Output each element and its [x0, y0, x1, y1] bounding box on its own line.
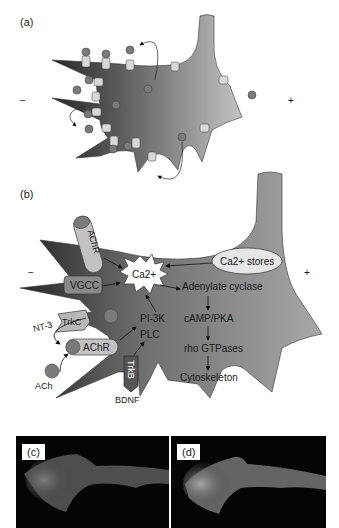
cascade-step-4: Cytoskeleton	[180, 372, 238, 383]
trkb-label: TrkB	[126, 360, 136, 379]
achr-bottom-label: AChR	[83, 342, 110, 353]
plc-label: PLC	[140, 329, 159, 340]
cascade-step-2: cAMP/PKA	[184, 313, 234, 324]
panel-b-minus: −	[28, 267, 34, 278]
cascade-step-3: rho GTPases	[184, 343, 243, 354]
bdnf-label: BDNF	[115, 395, 140, 405]
pi3k-label: PI-3K	[140, 313, 165, 324]
panel-c-label: (c)	[22, 444, 45, 460]
trkc-receptor: TrkC	[56, 310, 90, 332]
micrograph-d: (d)	[171, 436, 326, 528]
ligand-circle	[104, 309, 118, 323]
nt3-label: NT-3	[32, 320, 53, 334]
panel-a-growth-cone	[52, 15, 242, 173]
vgcc-channel: VGCC	[64, 276, 102, 294]
trkb-receptor: TrkB	[124, 356, 138, 392]
achr-bottom-receptor: AChR	[66, 339, 118, 355]
panel-d-label: (d)	[177, 444, 200, 460]
calcium-label: Ca2+	[132, 269, 156, 280]
cascade-step-1: Adenylate cyclase	[182, 281, 263, 292]
ach-ligand	[45, 364, 59, 378]
micrograph-c: (c)	[16, 436, 169, 528]
panel-a-plus: +	[288, 95, 294, 106]
calcium-stores-label: Ca2+ stores	[220, 256, 274, 267]
ach-label: ACh	[35, 381, 53, 391]
panel-b-plus: +	[304, 267, 310, 278]
calcium-stores: Ca2+ stores	[212, 248, 282, 274]
vgcc-label: VGCC	[70, 280, 99, 291]
panel-a-minus: −	[20, 95, 26, 106]
